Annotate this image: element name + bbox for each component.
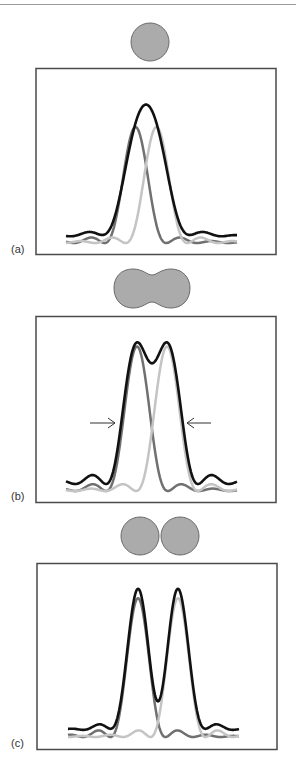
right-disc-object bbox=[161, 517, 199, 555]
left-disc-object bbox=[121, 517, 159, 555]
figure-canvas bbox=[0, 0, 296, 760]
plot-frame-b bbox=[36, 317, 276, 503]
sum-curve-b bbox=[66, 342, 237, 484]
single-disc-object bbox=[131, 23, 169, 61]
source-left-curve-c bbox=[68, 598, 239, 737]
source-left-curve-b bbox=[66, 347, 237, 492]
sum-curve-a bbox=[66, 105, 237, 237]
sum-curve-c bbox=[68, 589, 239, 730]
panel-b bbox=[36, 269, 276, 503]
left-arrow-icon bbox=[187, 418, 211, 428]
merged-peanut-object bbox=[114, 269, 190, 308]
source-left-curve-a bbox=[66, 127, 237, 243]
panel-a bbox=[36, 23, 276, 255]
source-right-curve-a bbox=[66, 127, 237, 243]
source-right-curve-c bbox=[68, 598, 239, 737]
right-arrow-icon bbox=[90, 418, 115, 428]
panel-c bbox=[37, 517, 277, 750]
